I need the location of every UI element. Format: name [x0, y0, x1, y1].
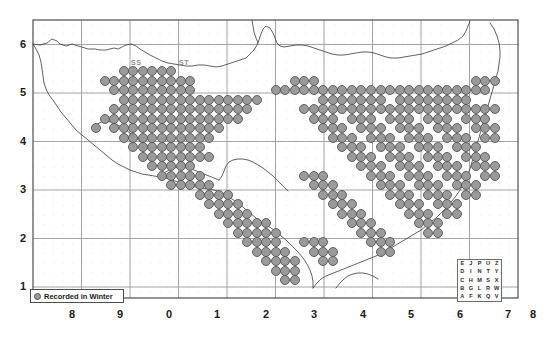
record-marker [224, 210, 233, 219]
record-marker [148, 86, 157, 95]
record-marker [415, 105, 424, 114]
record-marker [424, 229, 433, 238]
record-marker [92, 124, 101, 133]
record-marker [443, 86, 452, 95]
record-marker [310, 238, 319, 247]
record-marker [415, 143, 424, 152]
record-marker [386, 143, 395, 152]
record-marker [386, 115, 395, 124]
record-marker [357, 162, 366, 171]
record-marker [300, 86, 309, 95]
grid-key-cell: B [458, 285, 467, 293]
record-marker [224, 105, 233, 114]
record-marker [357, 124, 366, 133]
record-marker [129, 143, 138, 152]
record-marker [110, 115, 119, 124]
record-marker [443, 210, 452, 219]
record-marker [186, 86, 195, 95]
record-marker [367, 238, 376, 247]
record-marker [462, 86, 471, 95]
record-marker [396, 153, 405, 162]
record-marker [272, 267, 281, 276]
record-marker [405, 134, 414, 143]
record-marker [310, 181, 319, 190]
y-axis-label-5: 5 [12, 86, 26, 98]
record-marker [424, 143, 433, 152]
grid-key-cell: A [458, 293, 467, 301]
record-marker [377, 134, 386, 143]
record-marker [424, 172, 433, 181]
os-grid-letter-key: EJPUZDINTYCHMSXBGLRWAFKQV [457, 259, 502, 302]
x-axis-label-7: 5 [401, 308, 421, 320]
record-marker [101, 77, 110, 86]
record-marker [177, 96, 186, 105]
record-marker [148, 143, 157, 152]
record-marker [367, 86, 376, 95]
record-marker [453, 96, 462, 105]
record-marker [167, 115, 176, 124]
record-marker [386, 172, 395, 181]
record-marker [167, 134, 176, 143]
record-marker [377, 105, 386, 114]
record-marker [348, 96, 357, 105]
record-marker [158, 162, 167, 171]
record-marker [310, 248, 319, 257]
record-marker [472, 153, 481, 162]
record-marker [177, 153, 186, 162]
record-marker [377, 181, 386, 190]
record-marker [196, 172, 205, 181]
record-marker [272, 257, 281, 266]
grid-key-cell: H [467, 276, 476, 284]
record-marker [491, 162, 500, 171]
record-marker [120, 134, 129, 143]
grid-key-cell: N [475, 268, 484, 276]
record-marker [234, 115, 243, 124]
record-marker [167, 67, 176, 76]
record-marker [158, 124, 167, 133]
record-marker [415, 124, 424, 133]
record-marker [272, 248, 281, 257]
record-marker [481, 172, 490, 181]
record-marker [481, 105, 490, 114]
record-marker [196, 96, 205, 105]
record-marker [472, 115, 481, 124]
record-marker [234, 219, 243, 228]
record-marker [424, 134, 433, 143]
record-marker [205, 134, 214, 143]
record-marker [120, 115, 129, 124]
record-marker [243, 105, 252, 114]
record-marker [205, 124, 214, 133]
record-marker [129, 86, 138, 95]
record-marker [253, 229, 262, 238]
record-marker [338, 96, 347, 105]
record-marker [357, 86, 366, 95]
record-marker [319, 96, 328, 105]
record-marker [139, 143, 148, 152]
record-marker [243, 229, 252, 238]
record-marker [262, 219, 271, 228]
record-marker [415, 96, 424, 105]
record-marker [424, 105, 433, 114]
grid-key-cell: Q [484, 293, 493, 301]
record-marker [481, 124, 490, 133]
record-marker [367, 115, 376, 124]
x-axis-label-1: 9 [110, 308, 130, 320]
record-marker [329, 124, 338, 133]
record-marker [443, 172, 452, 181]
record-marker [167, 96, 176, 105]
record-marker [443, 153, 452, 162]
record-marker [405, 105, 414, 114]
record-marker [205, 181, 214, 190]
record-marker [453, 143, 462, 152]
record-marker [272, 229, 281, 238]
record-marker [253, 96, 262, 105]
record-marker [177, 181, 186, 190]
record-marker [434, 143, 443, 152]
record-marker [357, 229, 366, 238]
record-marker [186, 124, 195, 133]
record-marker [110, 86, 119, 95]
record-marker [453, 181, 462, 190]
record-marker [377, 248, 386, 257]
record-marker [377, 162, 386, 171]
record-marker [405, 153, 414, 162]
